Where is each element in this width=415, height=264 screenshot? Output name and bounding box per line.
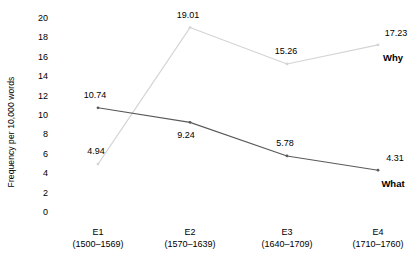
x-tick-range: (1500–1569) [72, 238, 123, 250]
y-axis-tick: 12 [22, 91, 48, 100]
data-point-what-e1 [97, 106, 100, 109]
y-axis-tick: 14 [22, 72, 48, 81]
x-axis-tick-e3: E3(1640–1709) [261, 226, 312, 250]
y-axis-tick: 6 [22, 149, 48, 158]
value-label-what-e2: 9.24 [177, 131, 195, 140]
x-axis-tick-e2: E2(1570–1639) [164, 226, 215, 250]
value-label-why-e1: 4.94 [87, 147, 105, 156]
x-tick-range: (1640–1709) [261, 238, 312, 250]
value-label-what-e1: 10.74 [84, 90, 107, 99]
data-point-why-e2 [189, 26, 192, 29]
y-axis-tick: 18 [22, 33, 48, 42]
series-label-why: Why [383, 53, 403, 63]
value-label-what-e3: 5.78 [276, 138, 294, 147]
data-point-why-e1 [97, 163, 100, 166]
series-label-what: What [381, 179, 404, 189]
value-label-why-e4: 17.23 [385, 28, 408, 37]
y-axis-title: Frequency per 10,000 words [0, 0, 22, 264]
data-point-what-e4 [377, 169, 380, 172]
value-label-why-e2: 19.01 [177, 10, 200, 19]
y-axis-tick-labels: 20181614121086420 [22, 0, 48, 264]
x-tick-range: (1710–1760) [352, 238, 403, 250]
value-label-why-e3: 15.26 [275, 46, 298, 55]
y-axis-tick: 2 [22, 188, 48, 197]
plot-area [52, 0, 415, 264]
x-axis-tick-e1: E1(1500–1569) [72, 226, 123, 250]
line-chart: Frequency per 10,000 words 2018161412108… [0, 0, 415, 264]
series-line-what [98, 108, 378, 170]
data-point-why-e4 [377, 43, 380, 46]
x-axis-tick-e4: E4(1710–1760) [352, 226, 403, 250]
y-axis-tick: 10 [22, 111, 48, 120]
y-axis-tick: 16 [22, 52, 48, 61]
data-point-what-e3 [286, 155, 289, 158]
value-label-what-e4: 4.31 [386, 154, 404, 163]
x-tick-period: E1 [72, 226, 123, 238]
series-line-why [98, 28, 378, 164]
y-axis-tick: 8 [22, 130, 48, 139]
x-tick-period: E3 [261, 226, 312, 238]
y-axis-tick: 0 [22, 208, 48, 217]
data-point-why-e3 [286, 63, 289, 66]
y-axis-tick: 4 [22, 169, 48, 178]
x-tick-period: E2 [164, 226, 215, 238]
series-lines [52, 0, 415, 264]
x-tick-period: E4 [352, 226, 403, 238]
x-tick-range: (1570–1639) [164, 238, 215, 250]
y-axis-tick: 20 [22, 14, 48, 23]
data-point-what-e2 [189, 121, 192, 124]
